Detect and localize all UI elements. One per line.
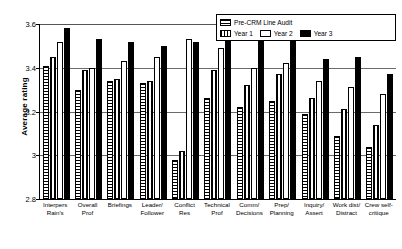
- bar-group: [169, 24, 201, 199]
- bar: [121, 61, 127, 199]
- bar: [316, 81, 322, 199]
- bar: [114, 79, 120, 199]
- x-axis-label-line: Crew self-: [363, 201, 395, 209]
- y-axis-tick-label: 2.8: [0, 195, 36, 204]
- bar: [75, 90, 81, 199]
- y-axis-tick-label: 3.6: [0, 20, 36, 29]
- y-axis-tick-label: 3.2: [0, 107, 36, 116]
- x-axis-label: ConflictRes: [168, 201, 200, 217]
- bar: [107, 81, 113, 199]
- bar: [179, 151, 185, 199]
- bar: [323, 59, 329, 199]
- bar: [251, 68, 257, 199]
- bar-group: [105, 24, 137, 199]
- bar-group: [40, 24, 72, 199]
- x-axis-label-line: Technical: [201, 201, 233, 209]
- y-axis-tick-mark: [36, 68, 39, 69]
- legend-swatch-year-1: [220, 30, 231, 37]
- x-axis-label: OverallProf: [71, 201, 103, 217]
- x-axis-label-line: Prep/: [266, 201, 298, 209]
- x-axis-label: Leader/Follower: [136, 201, 168, 217]
- bar-group: [202, 24, 234, 199]
- x-axis-label: Inquiry/Assert: [298, 201, 330, 217]
- legend-row-primary: Pre-CRM Line Audit: [220, 17, 392, 27]
- bar: [258, 35, 264, 199]
- x-axis-label-line: Conflict: [168, 201, 200, 209]
- y-axis-tick-mark: [36, 112, 39, 113]
- x-axis-label: Crew self-critique: [363, 201, 395, 217]
- bar: [43, 66, 49, 199]
- bar: [50, 57, 56, 199]
- bar: [154, 57, 160, 199]
- bar-group: [137, 24, 169, 199]
- bar-group: [234, 24, 266, 199]
- x-axis-label: InterpersRain's: [39, 201, 71, 217]
- x-axis-label-line: Planning: [266, 209, 298, 217]
- x-axis-label-line: critique: [363, 209, 395, 217]
- bar: [380, 94, 386, 199]
- bar: [366, 147, 372, 200]
- bar: [64, 28, 70, 199]
- bar-groups: [40, 24, 396, 199]
- legend: Pre-CRM Line Audit Year 1 Year 2 Year 3: [216, 14, 396, 41]
- x-axis-labels: InterpersRain'sOverallProfBriefingsLeade…: [39, 201, 395, 217]
- bar: [244, 85, 250, 199]
- x-axis-label-line: Prof: [71, 209, 103, 217]
- x-axis-label-line: Leader/: [136, 201, 168, 209]
- bar: [57, 42, 63, 200]
- bar: [334, 136, 340, 199]
- legend-label-year-1: Year 1: [234, 30, 253, 37]
- bar: [309, 98, 315, 199]
- x-axis-label-line: Follower: [136, 209, 168, 217]
- bar: [211, 70, 217, 199]
- x-axis-label-line: Inquiry/: [298, 201, 330, 209]
- bar-group: [299, 24, 331, 199]
- x-axis-label-line: Overall: [71, 201, 103, 209]
- x-axis-label-line: Interpers: [39, 201, 71, 209]
- y-axis-tick-mark: [36, 24, 39, 25]
- bar: [341, 109, 347, 199]
- legend-label-pre-crm-line-audit: Pre-CRM Line Audit: [234, 19, 292, 26]
- bar: [89, 68, 95, 199]
- x-axis-label-line: Rain's: [39, 209, 71, 217]
- bar: [204, 98, 210, 199]
- bar: [225, 37, 231, 199]
- bar: [387, 74, 393, 199]
- legend-row-years: Year 1 Year 2 Year 3: [220, 28, 392, 38]
- bar: [237, 107, 243, 199]
- plot-area: [39, 24, 396, 200]
- bar: [147, 81, 153, 199]
- y-axis-tick-mark: [36, 199, 39, 200]
- x-axis-label-line: Distract: [330, 209, 362, 217]
- bar: [348, 87, 354, 199]
- bar-group: [364, 24, 396, 199]
- bar: [373, 125, 379, 199]
- bar-group: [72, 24, 104, 199]
- x-axis-label: Comm/Decisions: [233, 201, 265, 217]
- legend-swatch-year-3: [300, 30, 311, 37]
- bar: [290, 33, 296, 199]
- bar: [186, 39, 192, 199]
- legend-swatch-pre-crm-line-audit: [220, 19, 231, 26]
- bar: [193, 42, 199, 200]
- bar: [269, 101, 275, 199]
- x-axis-label-line: Decisions: [233, 209, 265, 217]
- bar: [218, 48, 224, 199]
- y-axis-tick-mark: [36, 155, 39, 156]
- bar: [283, 63, 289, 199]
- x-axis-label-line: Assert: [298, 209, 330, 217]
- legend-swatch-year-2: [260, 30, 271, 37]
- x-axis-label-line: Res: [168, 209, 200, 217]
- y-axis-tick-label: 3: [0, 151, 36, 160]
- bar: [172, 160, 178, 199]
- bar-chart: Average rating 2.833.23.43.6 InterpersRa…: [0, 0, 402, 249]
- legend-label-year-2: Year 2: [274, 30, 293, 37]
- x-axis-label-line: Comm/: [233, 201, 265, 209]
- bar: [355, 57, 361, 199]
- bar: [128, 42, 134, 200]
- legend-label-year-3: Year 3: [314, 30, 333, 37]
- x-axis-label: Work dist/Distract: [330, 201, 362, 217]
- x-axis-label-line: Work dist/: [330, 201, 362, 209]
- bar-group: [331, 24, 363, 199]
- bar: [161, 46, 167, 199]
